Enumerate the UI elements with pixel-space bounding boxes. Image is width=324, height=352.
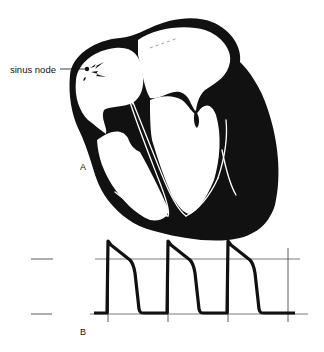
sinus-node-label: sinus node — [10, 64, 56, 75]
action-potential-trace — [94, 241, 295, 313]
waveform-panel — [31, 240, 308, 322]
panel-b-label: B — [80, 327, 86, 337]
figure: sinus node A B — [0, 0, 324, 352]
panel-a-label: A — [80, 162, 86, 172]
heart-diagram — [69, 18, 278, 240]
action-potential-train — [94, 240, 295, 313]
